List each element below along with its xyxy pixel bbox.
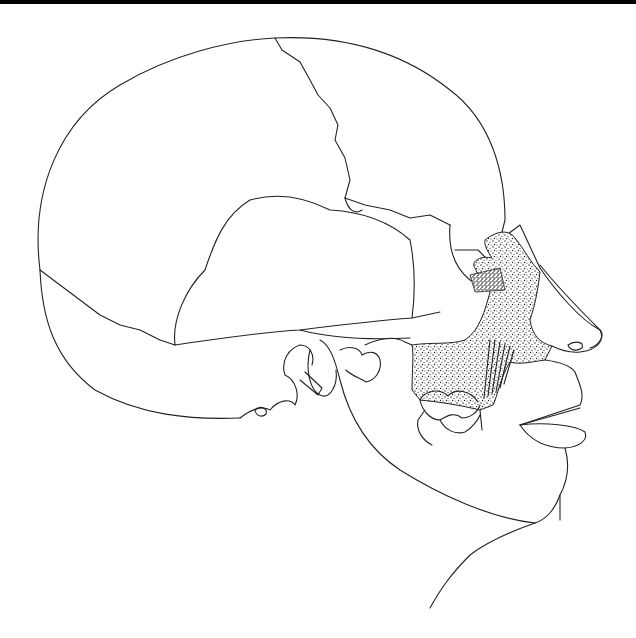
zygomatic-lower [300,330,410,339]
neck [430,523,535,608]
parietal-inner [345,198,362,212]
nose-profile [540,265,602,352]
lambdoid-suture [40,270,175,345]
squamosal-suture [175,196,414,345]
coronoid [365,338,412,345]
ear-small [255,407,266,416]
infraorbital-dark [470,268,505,292]
lower-lip [520,424,586,448]
nostril [568,342,583,350]
lip-line [520,408,580,425]
sphenoid-suture [345,198,450,225]
skull-illustration [0,0,636,638]
maxilla-stipple [412,232,552,410]
condyle [340,348,380,382]
coronal-suture [275,38,350,198]
chin [535,448,568,523]
cranium-outline [38,38,505,270]
upper-lip [520,360,582,425]
